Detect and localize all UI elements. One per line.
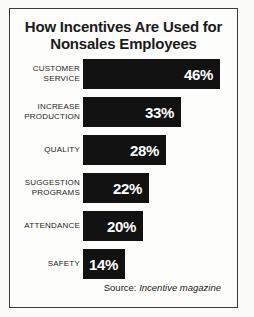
chart-title: How Incentives Are Used for Nonsales Emp… <box>10 18 237 52</box>
bar-track-attendance: 20% <box>83 211 231 241</box>
bar-label-line-1: CUSTOMER <box>33 64 80 74</box>
bar-label-suggestion-programs: SUGGESTION PROGRAMS <box>14 173 80 203</box>
bar-track-safety: 14% <box>83 249 231 279</box>
bar-label-line-2: SERVICE <box>44 74 80 84</box>
bar-fill-increase-production: 33% <box>83 97 181 127</box>
bar-label-line-1: SAFETY <box>48 259 80 269</box>
bar-label-attendance: ATTENDANCE <box>14 211 80 241</box>
bar-row-safety: SAFETY 14% <box>10 249 237 279</box>
bar-label-safety: SAFETY <box>14 249 80 279</box>
bar-label-increase-production: INCREASE PRODUCTION <box>14 97 80 127</box>
bar-row-attendance: ATTENDANCE 20% <box>10 211 237 241</box>
bar-value-suggestion-programs: 22% <box>113 181 142 196</box>
bar-label-line-2: PRODUCTION <box>24 112 80 122</box>
bar-row-quality: QUALITY 28% <box>10 135 237 165</box>
bar-fill-customer-service: 46% <box>83 59 220 89</box>
incentives-bar-chart-figure: How Incentives Are Used for Nonsales Emp… <box>0 0 254 317</box>
bar-label-quality: QUALITY <box>14 135 80 165</box>
bar-row-customer-service: CUSTOMER SERVICE 46% <box>10 59 237 89</box>
source-publication-name: Incentive magazine <box>139 282 221 293</box>
bar-label-line-1: SUGGESTION <box>25 178 80 188</box>
bar-label-line-2: PROGRAMS <box>32 188 80 198</box>
bar-label-line-1: QUALITY <box>44 145 80 155</box>
bar-value-increase-production: 33% <box>145 105 174 120</box>
bar-track-customer-service: 46% <box>83 59 231 89</box>
bar-label-line-1: INCREASE <box>38 102 81 112</box>
bar-label-line-1: ATTENDANCE <box>24 221 80 231</box>
source-prefix-label: Source: <box>104 282 137 293</box>
bar-track-suggestion-programs: 22% <box>83 173 231 203</box>
bar-value-safety: 14% <box>89 257 118 272</box>
bar-track-quality: 28% <box>83 135 231 165</box>
bar-value-attendance: 20% <box>107 219 136 234</box>
bar-value-quality: 28% <box>130 143 159 158</box>
bar-rows-container: CUSTOMER SERVICE 46% INCREASE PRODUCTION… <box>10 59 237 287</box>
bar-fill-quality: 28% <box>83 135 166 165</box>
bar-label-customer-service: CUSTOMER SERVICE <box>14 59 80 89</box>
bar-fill-attendance: 20% <box>83 211 143 241</box>
chart-title-line-1: How Incentives Are Used for <box>10 18 237 35</box>
chart-border-frame: How Incentives Are Used for Nonsales Emp… <box>9 8 238 308</box>
bar-row-increase-production: INCREASE PRODUCTION 33% <box>10 97 237 127</box>
bar-value-customer-service: 46% <box>184 67 213 82</box>
chart-source-note: Source: Incentive magazine <box>104 282 221 293</box>
bar-fill-safety: 14% <box>83 249 125 279</box>
bar-track-increase-production: 33% <box>83 97 231 127</box>
bar-row-suggestion-programs: SUGGESTION PROGRAMS 22% <box>10 173 237 203</box>
bar-fill-suggestion-programs: 22% <box>83 173 149 203</box>
chart-title-line-2: Nonsales Employees <box>10 35 237 52</box>
